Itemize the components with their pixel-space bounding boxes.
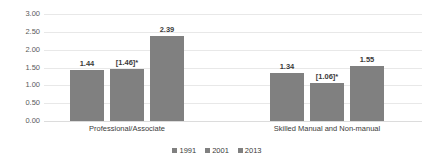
legend-swatch-icon: [205, 148, 210, 153]
y-axis: 3.002.502.001.501.000.500.00: [0, 0, 40, 163]
bar-slot: 1.44: [70, 14, 104, 121]
legend-item[interactable]: 2013: [238, 146, 262, 155]
bar-slot: 1.34: [270, 14, 304, 121]
bar-value-label: 2.39: [142, 25, 192, 34]
y-axis-tick-label: 2.00: [6, 46, 40, 54]
bar[interactable]: [70, 70, 104, 121]
legend-item-label: 2001: [212, 146, 229, 155]
bar-slot: 1.55: [350, 14, 384, 121]
bar-group-bars: 1.34[1.06]*1.55: [270, 14, 384, 121]
bar-group: 1.34[1.06]*1.55: [270, 14, 384, 121]
legend-item-label: 1991: [179, 146, 196, 155]
chart-legend: 199120012013: [0, 144, 434, 156]
y-axis-tick-label: 3.00: [6, 10, 40, 18]
bar-slot: 2.39: [150, 14, 184, 121]
bar-value-label: 1.34: [262, 62, 312, 71]
legend-swatch-icon: [172, 148, 177, 153]
bar-slot: [1.46]*: [110, 14, 144, 121]
y-axis-tick-label: 1.50: [6, 64, 40, 72]
bar-value-label: [1.06]*: [302, 72, 352, 81]
bar-chart: 3.002.502.001.501.000.500.00 1.44[1.46]*…: [0, 0, 434, 163]
bar[interactable]: [150, 36, 184, 121]
y-axis-tick-label: 2.50: [6, 28, 40, 36]
legend-item[interactable]: 1991: [172, 146, 196, 155]
legend-item[interactable]: 2001: [205, 146, 229, 155]
legend-item-label: 2013: [245, 146, 262, 155]
x-axis-category-label: Skilled Manual and Non-manual: [227, 124, 427, 133]
bar[interactable]: [350, 66, 384, 121]
bar[interactable]: [310, 83, 344, 121]
x-axis-category-label: Professional/Associate: [27, 124, 227, 133]
bar-group-bars: 1.44[1.46]*2.39: [70, 14, 184, 121]
y-axis-tick-label: 0.50: [6, 99, 40, 107]
bar[interactable]: [110, 69, 144, 121]
bar-value-label: [1.46]*: [102, 58, 152, 67]
bar-group: 1.44[1.46]*2.39: [70, 14, 184, 121]
y-axis-tick-label: 1.00: [6, 81, 40, 89]
legend-swatch-icon: [238, 148, 243, 153]
bar-slot: [1.06]*: [310, 14, 344, 121]
bar-value-label: 1.55: [342, 55, 392, 64]
bar[interactable]: [270, 73, 304, 121]
gridline: [44, 121, 422, 122]
